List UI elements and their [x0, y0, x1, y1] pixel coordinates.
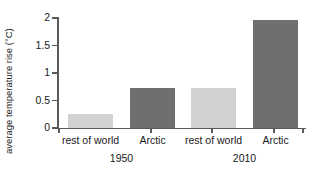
y-axis-tick-label: 1.5 — [4, 40, 50, 51]
y-axis-tick-label: 0 — [4, 122, 50, 133]
x-axis-tick-mark — [302, 128, 304, 133]
bar-chart: average temperature rise (°C) 21.510.50 … — [0, 0, 311, 178]
x-axis-tick-mark — [273, 128, 275, 133]
y-axis-tick-labels: 21.510.50 — [0, 0, 50, 178]
x-axis-group-label: 2010 — [205, 152, 285, 165]
bar — [191, 88, 236, 128]
bar — [253, 20, 298, 128]
bars-layer — [57, 18, 306, 128]
x-axis-tick-mark — [58, 128, 60, 133]
x-axis-category-label: Arctic — [216, 134, 312, 147]
y-axis-tick-label: 1 — [4, 67, 50, 78]
bar — [130, 88, 175, 128]
x-axis-tick-mark — [150, 128, 152, 133]
y-axis-tick-label: 2 — [4, 12, 50, 23]
y-axis-tick-label: 0.5 — [4, 95, 50, 106]
x-axis-group-label: 1950 — [82, 152, 162, 165]
bar — [68, 114, 113, 128]
x-axis-tick-mark — [211, 128, 213, 133]
